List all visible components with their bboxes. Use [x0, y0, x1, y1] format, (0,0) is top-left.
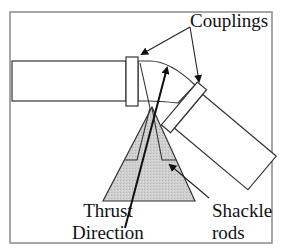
- left-pipe: [12, 61, 126, 101]
- shackle-label-line2: rods: [212, 222, 272, 244]
- left-coupling: [126, 57, 138, 106]
- shackle-label-line1: Shackle: [212, 200, 272, 222]
- couplings-callout-arrow-left: [142, 27, 190, 54]
- thrust-label-line2: Direction: [72, 222, 144, 244]
- couplings-label: Couplings: [190, 10, 268, 32]
- shackle-rods-label: Shackle rods: [212, 200, 272, 244]
- thrust-label-line1: Thrust: [72, 200, 144, 222]
- thrust-direction-label: Thrust Direction: [72, 200, 144, 244]
- couplings-callout-arrow-right: [190, 27, 199, 81]
- pipe-thrust-diagram: Couplings Thrust Direction Shackle rods: [0, 0, 281, 251]
